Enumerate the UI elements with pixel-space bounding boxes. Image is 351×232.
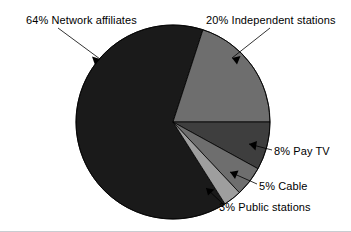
slice-label-public-stations: 3% Public stations <box>219 201 311 213</box>
bottom-divider <box>0 231 351 232</box>
pie-chart-graphic <box>0 0 351 232</box>
leader-network-affiliates <box>58 28 100 65</box>
leader-independent-stations <box>232 28 270 65</box>
slice-label-cable: 5% Cable <box>259 180 308 192</box>
slice-label-independent-stations: 20% Independent stations <box>206 14 336 26</box>
slice-label-network-affiliates: 64% Network affiliates <box>26 14 137 26</box>
slice-label-pay-tv: 8% Pay TV <box>274 145 330 157</box>
pie-chart-figure: 64% Network affiliates 20% Independent s… <box>0 0 351 232</box>
